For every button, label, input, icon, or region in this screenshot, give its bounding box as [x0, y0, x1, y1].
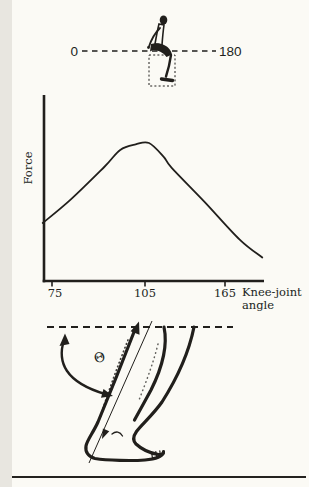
- knee-angle-scale-illustration: 0 180: [12, 0, 309, 90]
- toe-line: [159, 451, 160, 457]
- x-tick-label-165: 165: [214, 286, 236, 300]
- figure-hand: [147, 46, 150, 49]
- seated-person-figure: [147, 15, 172, 80]
- leg-angle-diagram: Θ: [12, 310, 309, 476]
- x-tick-label-105: 105: [134, 286, 156, 300]
- theta-symbol: Θ: [92, 348, 107, 366]
- shank-axis-arrowhead-icon: [102, 428, 109, 439]
- textbook-figure-page: 0 180 75: [12, 0, 309, 487]
- x-axis-title-line1: Knee-joint: [242, 285, 302, 299]
- page-bottom-rule: [12, 476, 306, 478]
- figure-shin: [166, 55, 171, 77]
- scale-max-label: 180: [219, 44, 242, 59]
- scale-min-label: 0: [70, 44, 78, 59]
- shin-line-arrowhead-icon: [130, 322, 139, 335]
- lower-leg-drawing: [85, 322, 193, 461]
- force-angle-chart: 75 105 165 Force Knee-joint angle: [12, 90, 309, 312]
- figure-torso: [155, 24, 164, 45]
- figure-foot: [161, 79, 172, 81]
- figure-head: [159, 15, 167, 24]
- y-axis-title: Force: [21, 151, 35, 184]
- ankle-bone-line: [112, 432, 123, 436]
- x-tick-label-75: 75: [47, 286, 62, 300]
- force-curve: [42, 142, 262, 257]
- angle-arrowhead-up-icon: [59, 334, 69, 347]
